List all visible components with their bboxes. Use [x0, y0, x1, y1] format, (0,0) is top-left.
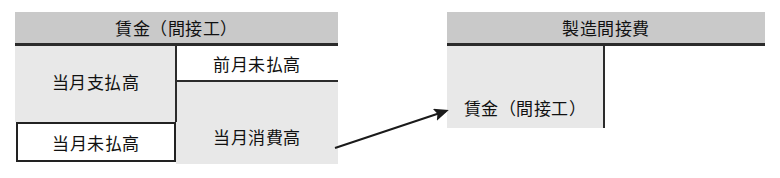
- flow-arrow-icon: [330, 100, 460, 160]
- t-account-manufacturing-overhead: 製造間接費 賃金（間接工）: [447, 12, 765, 128]
- t-account-flow-diagram: 賃金（間接工） 当月支払高 当月未払高 前月未払高 当月消費高 製造間接費 賃金…: [0, 0, 780, 178]
- t-account-vertical-divider: [603, 46, 605, 128]
- t-account-wages-indirect-labor: 賃金（間接工） 当月支払高 当月未払高 前月未払高 当月消費高: [15, 12, 338, 164]
- cell-wages-indirect: 賃金（間接工）: [447, 46, 603, 128]
- cell-current-consumed: 当月消費高: [176, 82, 338, 164]
- t-account-header-wages-indirect-labor: 賃金（間接工）: [15, 12, 338, 46]
- t-account-body-wages-indirect-labor: 当月支払高 当月未払高 前月未払高 当月消費高: [15, 46, 338, 164]
- t-account-header-manufacturing-overhead: 製造間接費: [447, 12, 765, 46]
- cell-current-paid: 当月支払高: [15, 46, 176, 122]
- t-account-body-manufacturing-overhead: 賃金（間接工）: [447, 46, 765, 128]
- cell-current-unpaid: 当月未払高: [16, 122, 176, 162]
- t-account-vertical-divider: [175, 46, 177, 122]
- cell-prev-unpaid: 前月未払高: [176, 46, 338, 82]
